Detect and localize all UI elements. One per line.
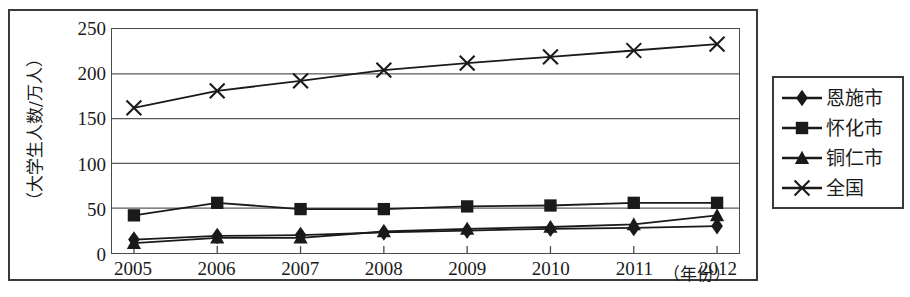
x-axis-tick-label-2009: 2009 (448, 259, 486, 278)
legend-item-全国[interactable]: 全国 (781, 173, 896, 203)
plot-area (111, 28, 740, 254)
y-axis-tick-label: 100 (62, 155, 106, 174)
legend-marker-triangle-icon (781, 148, 823, 168)
data-point-怀化市-2008 (378, 203, 390, 215)
data-point-怀化市-2005 (128, 209, 140, 221)
data-point-铜仁市-2012 (710, 208, 724, 221)
legend-item-铜仁市[interactable]: 铜仁市 (781, 143, 896, 173)
y-axis-title: （大学生人数/万人） (21, 30, 46, 230)
y-axis-tick-label: 200 (62, 64, 106, 83)
chart-legend: 恩施市怀化市铜仁市全国 (772, 76, 904, 209)
legend-label: 怀化市 (826, 119, 883, 138)
legend-label: 铜仁市 (826, 149, 883, 168)
legend-item-怀化市[interactable]: 怀化市 (781, 113, 896, 143)
data-point-怀化市-2011 (628, 197, 640, 209)
data-point-怀化市-2009 (461, 200, 473, 212)
x-axis-tick-label-2008: 2008 (365, 259, 403, 278)
y-axis-tick-label: 250 (62, 19, 106, 38)
y-axis-tick-label: 0 (62, 245, 106, 264)
legend-label: 全国 (826, 179, 864, 198)
y-axis-tick-label: 50 (62, 200, 106, 219)
x-axis-tick-label-2010: 2010 (532, 259, 570, 278)
y-axis-tick-label: 150 (62, 109, 106, 128)
legend-marker-cross-icon (781, 178, 823, 198)
data-point-全国-2005 (127, 100, 142, 115)
data-point-怀化市-2012 (711, 197, 723, 209)
data-point-marker-diamond (796, 90, 808, 107)
x-axis-tick-label-2005: 2005 (114, 259, 152, 278)
legend-item-恩施市[interactable]: 恩施市 (781, 83, 896, 113)
x-axis-tick-label-2006: 2006 (198, 259, 236, 278)
y-axis-tick-labels: 050100150200250 (54, 11, 106, 283)
data-point-怀化市-2010 (544, 199, 556, 211)
legend-label: 恩施市 (826, 89, 883, 108)
chart-plot-svg (112, 29, 739, 253)
x-axis-title: （年份） (663, 260, 731, 285)
x-axis-tick-label-2011: 2011 (616, 259, 653, 278)
chart-figure-frame: （大学生人数/万人） 050100150200250 2005200620072… (8, 9, 758, 281)
legend-marker-diamond-icon (781, 88, 823, 108)
data-point-怀化市-2007 (294, 203, 306, 215)
data-point-marker-square (796, 122, 808, 134)
x-axis-tick-label-2007: 2007 (281, 259, 319, 278)
legend-marker-square-icon (781, 118, 823, 138)
data-point-怀化市-2006 (211, 197, 223, 209)
